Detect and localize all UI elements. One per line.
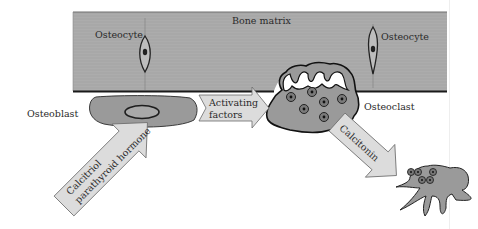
osteocyte-left-label: Osteocyte [95, 29, 143, 40]
bone-matrix: Bone matrix [73, 12, 447, 92]
inactive-osteoclast [396, 165, 471, 216]
osteocyte-right-label: Osteocyte [381, 31, 429, 42]
nucleus-icon [371, 46, 375, 52]
osteoblast: Osteoblast [27, 96, 197, 127]
osteoclast-label: Osteoclast [364, 101, 415, 112]
activating-factors-arrow: Activating factors [199, 87, 269, 128]
bone-matrix-label: Bone matrix [232, 15, 292, 26]
osteoblast-nucleus [125, 106, 159, 119]
nucleus-icon [143, 49, 147, 55]
parathyroid-hormone-label: parathyroid hormone [72, 125, 153, 206]
bone-remodeling-diagram: Bone matrix Osteocyte Osteocyte Osteobla… [0, 0, 478, 229]
activating-factors-label-1: Activating [208, 97, 258, 108]
activating-factors-label-2: factors [209, 109, 243, 120]
osteoblast-label: Osteoblast [27, 108, 78, 119]
